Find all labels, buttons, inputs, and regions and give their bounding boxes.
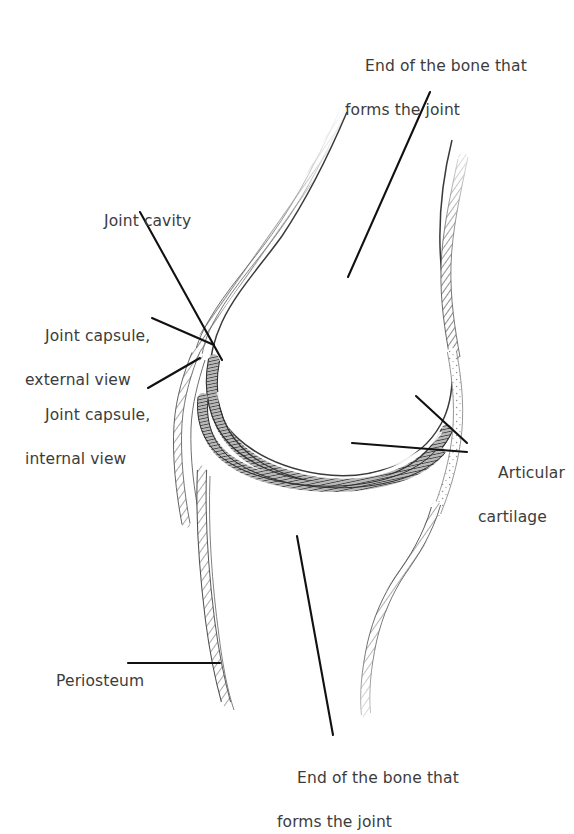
label-articular-cartilage-line2: cartilage <box>478 506 565 528</box>
label-capsule-internal-line2: internal view <box>25 448 150 470</box>
label-capsule-external-line1: Joint capsule, <box>45 327 150 345</box>
lower-bone-right-membrane <box>361 505 441 715</box>
leader-bottom-bone <box>297 536 333 735</box>
label-top-bone: End of the bone that forms the joint <box>345 33 527 165</box>
label-joint-cavity: Joint cavity <box>84 188 191 254</box>
upper-bone-right-membrane <box>441 157 468 359</box>
label-articular-cartilage-line1: Articular <box>498 464 565 482</box>
label-joint-cavity-line1: Joint cavity <box>104 212 191 230</box>
label-top-bone-line1: End of the bone that <box>365 57 527 75</box>
label-top-bone-line2: forms the joint <box>345 99 527 121</box>
label-bottom-bone-line1: End of the bone that <box>297 769 459 787</box>
label-periosteum: Periosteum <box>36 648 144 714</box>
label-joint-capsule-internal: Joint capsule, internal view <box>25 382 150 514</box>
upper-bone-outline <box>210 112 452 476</box>
label-periosteum-line1: Periosteum <box>56 672 144 690</box>
label-bottom-bone-line2: forms the joint <box>277 811 459 833</box>
label-articular-cartilage: Articular cartilage <box>478 440 565 572</box>
label-bottom-bone: End of the bone that forms the joint <box>277 745 459 834</box>
label-capsule-internal-line1: Joint capsule, <box>45 406 150 424</box>
